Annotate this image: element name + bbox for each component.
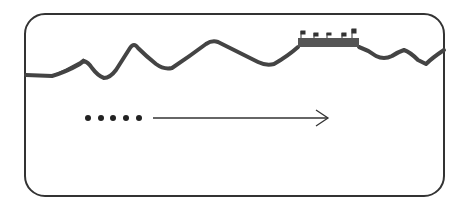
diagram-canvas	[0, 0, 468, 206]
terrain-ridge	[26, 41, 444, 78]
frame-border	[25, 14, 444, 196]
arrow-right-icon	[153, 110, 328, 126]
wall-icon	[298, 29, 359, 47]
dots-sequence	[85, 115, 142, 121]
